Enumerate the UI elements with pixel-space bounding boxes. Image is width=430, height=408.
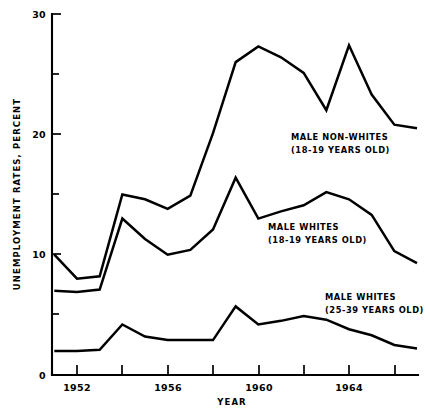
x-tick-label-1952: 1952 — [63, 382, 91, 393]
x-tick-label-1964: 1964 — [335, 382, 363, 393]
x-tick-label-1956: 1956 — [154, 382, 182, 393]
y-axis-title: UNEMPLOYMENT RATES, PERCENT — [12, 98, 22, 290]
y-tick-label-30: 30 — [32, 9, 46, 20]
x-axis-ticks — [77, 365, 395, 375]
y-tick-label-0: 0 — [39, 370, 46, 381]
annotation-nonwhites-line1: MALE NON-WHITES — [291, 132, 388, 142]
y-tick-label-10: 10 — [32, 249, 46, 260]
annotation-whites1819-line2: (18-19 YEARS OLD) — [268, 235, 367, 245]
x-axis-title: YEAR — [216, 397, 247, 407]
annotation-male-non-whites: MALE NON-WHITES (18-19 YEARS OLD) — [291, 132, 390, 155]
chart-figure: 30 20 10 0 1952 1956 1960 1964 YEAR UNEM… — [0, 0, 430, 408]
y-tick-label-20: 20 — [32, 129, 46, 140]
annotation-whites1819-line1: MALE WHITES — [268, 222, 339, 232]
annotation-nonwhites-line2: (18-19 YEARS OLD) — [291, 145, 390, 155]
x-tick-label-1960: 1960 — [245, 382, 273, 393]
annotation-male-whites-18-19: MALE WHITES (18-19 YEARS OLD) — [268, 222, 367, 245]
annotation-whites2539-line2: (25-39 YEARS OLD) — [325, 305, 424, 315]
annotation-whites2539-line1: MALE WHITES — [325, 292, 396, 302]
annotation-male-whites-25-39: MALE WHITES (25-39 YEARS OLD) — [325, 292, 424, 315]
chart-plot-area: 30 20 10 0 1952 1956 1960 1964 YEAR UNEM… — [0, 0, 430, 408]
